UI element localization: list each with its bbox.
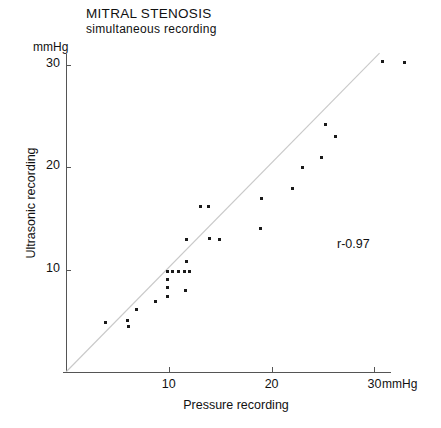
x-tick-mark bbox=[374, 367, 375, 372]
y-tick-label: 20 bbox=[36, 158, 60, 172]
data-point bbox=[183, 270, 186, 273]
data-point bbox=[171, 270, 174, 273]
x-tick-label: 30 bbox=[360, 377, 388, 391]
data-point bbox=[185, 238, 188, 241]
data-point bbox=[188, 270, 191, 273]
data-point bbox=[320, 156, 323, 159]
data-point bbox=[324, 123, 327, 126]
data-point bbox=[381, 60, 384, 63]
x-tick-label: 10 bbox=[155, 377, 183, 391]
origin-tick bbox=[63, 372, 70, 373]
x-tick-mark bbox=[272, 367, 273, 372]
data-point bbox=[177, 270, 180, 273]
x-tick-mark bbox=[169, 367, 170, 372]
data-point bbox=[166, 278, 169, 281]
data-point bbox=[260, 197, 263, 200]
y-tick-label: 30 bbox=[36, 56, 60, 70]
y-tick-mark bbox=[66, 270, 71, 271]
data-point bbox=[104, 321, 107, 324]
data-point bbox=[166, 270, 169, 273]
data-point bbox=[185, 260, 188, 263]
data-point bbox=[135, 308, 138, 311]
data-point bbox=[166, 295, 169, 298]
data-point bbox=[207, 205, 210, 208]
data-point bbox=[218, 238, 221, 241]
data-point bbox=[184, 289, 187, 292]
data-point bbox=[208, 237, 211, 240]
scatter-chart: MITRAL STENOSIS simultaneous recording m… bbox=[0, 0, 441, 428]
data-point bbox=[127, 325, 130, 328]
data-point bbox=[291, 187, 294, 190]
y-tick-mark bbox=[66, 167, 71, 168]
identity-line bbox=[66, 53, 380, 372]
x-tick-label: 20 bbox=[258, 377, 286, 391]
data-point bbox=[199, 205, 202, 208]
data-point bbox=[403, 61, 406, 64]
data-point bbox=[126, 319, 129, 322]
y-tick-label: 10 bbox=[36, 261, 60, 275]
y-tick-mark bbox=[66, 65, 71, 66]
data-point bbox=[301, 166, 304, 169]
data-point bbox=[166, 286, 169, 289]
data-point bbox=[154, 300, 157, 303]
data-point bbox=[334, 135, 337, 138]
data-point bbox=[259, 227, 262, 230]
